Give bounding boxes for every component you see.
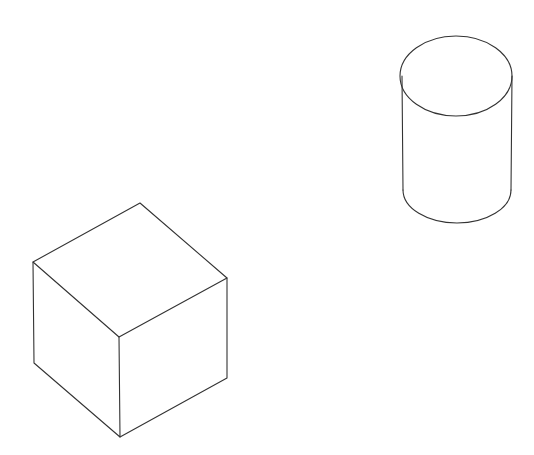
cube-top-face	[33, 203, 227, 337]
cylinder-bottom-arc	[403, 190, 511, 223]
cylinder-left-side	[402, 76, 403, 190]
cube-right-face	[120, 278, 227, 437]
cube	[33, 203, 227, 437]
cylinder	[400, 36, 512, 223]
cylinder-top-ellipse	[400, 36, 512, 116]
cylinder-right-side	[511, 76, 512, 190]
cube-left-face	[33, 262, 120, 437]
drawing-canvas	[0, 0, 534, 455]
